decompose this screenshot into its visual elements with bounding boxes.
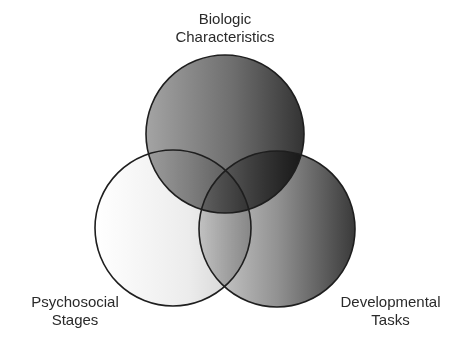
label-developmental-tasks: Developmental Tasks	[328, 293, 453, 329]
label-line: Psychosocial	[0, 293, 150, 311]
label-line: Developmental	[328, 293, 453, 311]
label-psychosocial-stages: Psychosocial Stages	[0, 293, 150, 329]
label-biologic-characteristics: Biologic Characteristics	[150, 10, 300, 46]
label-line: Stages	[0, 311, 150, 329]
label-line: Biologic	[150, 10, 300, 28]
label-line: Characteristics	[150, 28, 300, 46]
label-line: Tasks	[328, 311, 453, 329]
